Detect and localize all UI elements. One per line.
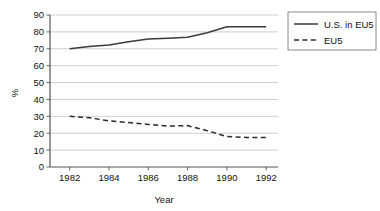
x-tick-label: 1984 <box>98 172 119 183</box>
y-tick-label: 10 <box>33 145 44 156</box>
y-axis-label: % <box>9 88 20 97</box>
legend: U.S. in EU5 EU5 <box>288 12 376 50</box>
x-axis-label: Year <box>154 194 173 205</box>
y-tick-label: 0 <box>39 161 44 172</box>
x-tick-label: 1986 <box>138 172 159 183</box>
y-tick-label: 40 <box>33 94 44 105</box>
x-tick-label: 1990 <box>216 172 237 183</box>
x-tick-label: 1992 <box>256 172 277 183</box>
y-tick-label: 60 <box>33 60 44 71</box>
y-tick-label: 80 <box>33 26 44 37</box>
legend-label-us-in-eu5: U.S. in EU5 <box>324 19 374 30</box>
y-tick-label: 50 <box>33 77 44 88</box>
y-tick-label: 90 <box>33 9 44 20</box>
line-chart: 0102030405060708090 19821984198619881990… <box>0 0 380 211</box>
x-tick-label: 1988 <box>177 172 198 183</box>
y-tick-label: 30 <box>33 111 44 122</box>
legend-label-eu5: EU5 <box>324 35 342 46</box>
y-tick-label: 70 <box>33 43 44 54</box>
x-tick-label: 1982 <box>59 172 80 183</box>
y-tick-label: 20 <box>33 128 44 139</box>
